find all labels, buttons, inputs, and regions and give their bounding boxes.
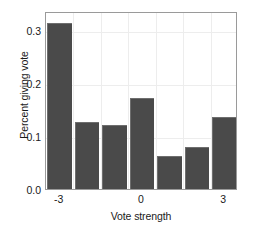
bar — [212, 117, 237, 189]
x-tick-label: 3 — [220, 193, 226, 205]
y-tick-label: 0.0 — [16, 184, 41, 196]
y-tick-label: 0.1 — [16, 131, 41, 143]
bar — [102, 125, 127, 189]
bar — [185, 147, 210, 190]
x-axis-title: Vote strength — [45, 210, 237, 222]
bar — [75, 122, 100, 189]
bar — [157, 156, 182, 189]
plot-area — [45, 12, 237, 190]
x-tick-label: -3 — [54, 193, 63, 205]
bar — [47, 23, 72, 189]
bar-chart-figure: Percent giving vote 0.00.10.20.3 -303 Vo… — [0, 0, 264, 242]
bars-group — [46, 13, 236, 189]
x-axis-tick-labels: -303 — [45, 193, 237, 209]
y-tick-label: 0.2 — [16, 78, 41, 90]
y-tick-label: 0.3 — [16, 25, 41, 37]
x-tick-label: 0 — [138, 193, 144, 205]
y-axis-tick-labels: 0.00.10.20.3 — [16, 0, 41, 242]
bar — [130, 98, 155, 189]
